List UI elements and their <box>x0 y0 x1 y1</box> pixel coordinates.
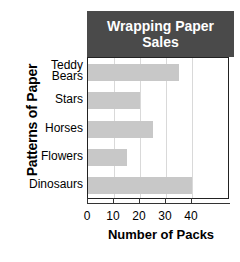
plot-area <box>87 57 229 199</box>
chart-title-line-2: Sales <box>107 34 214 50</box>
category-label: TeddyBears <box>0 60 83 82</box>
bar <box>88 92 140 109</box>
category-label-line: Dinosaurs <box>0 179 83 190</box>
x-axis-title: Number of Packs <box>87 227 235 242</box>
x-tick-10 <box>113 198 114 204</box>
category-label: Stars <box>0 94 83 105</box>
x-tick-30 <box>165 198 166 204</box>
x-tick-20 <box>139 198 140 204</box>
x-tick-label-30: 30 <box>153 209 177 223</box>
category-label: Flowers <box>0 151 83 162</box>
bar-fill <box>88 177 192 194</box>
bar-chart: Patterns of Paper Wrapping Paper Sales N… <box>0 0 240 262</box>
bar <box>88 121 153 138</box>
bar <box>88 149 127 166</box>
category-label: Dinosaurs <box>0 179 83 190</box>
chart-title: Wrapping Paper Sales <box>87 11 234 57</box>
x-tick-label-20: 20 <box>127 209 151 223</box>
category-label-line: Flowers <box>0 151 83 162</box>
bar-fill <box>88 121 153 138</box>
bar <box>88 177 192 194</box>
x-tick-label-10: 10 <box>101 209 125 223</box>
x-tick-40 <box>191 198 192 204</box>
x-tick-label-40: 40 <box>179 209 203 223</box>
category-label-line: Bears <box>0 71 83 82</box>
x-axis-line <box>87 203 230 204</box>
bar-fill <box>88 149 127 166</box>
bar-fill <box>88 92 140 109</box>
chart-title-line-1: Wrapping Paper <box>107 18 214 34</box>
x-tick-label-0: 0 <box>75 209 99 223</box>
gridline-40 <box>192 58 193 198</box>
category-label-line: Stars <box>0 94 83 105</box>
category-label-line: Horses <box>0 123 83 134</box>
category-label: Horses <box>0 123 83 134</box>
bar <box>88 64 179 81</box>
bar-fill <box>88 64 179 81</box>
x-tick-0 <box>87 198 88 204</box>
